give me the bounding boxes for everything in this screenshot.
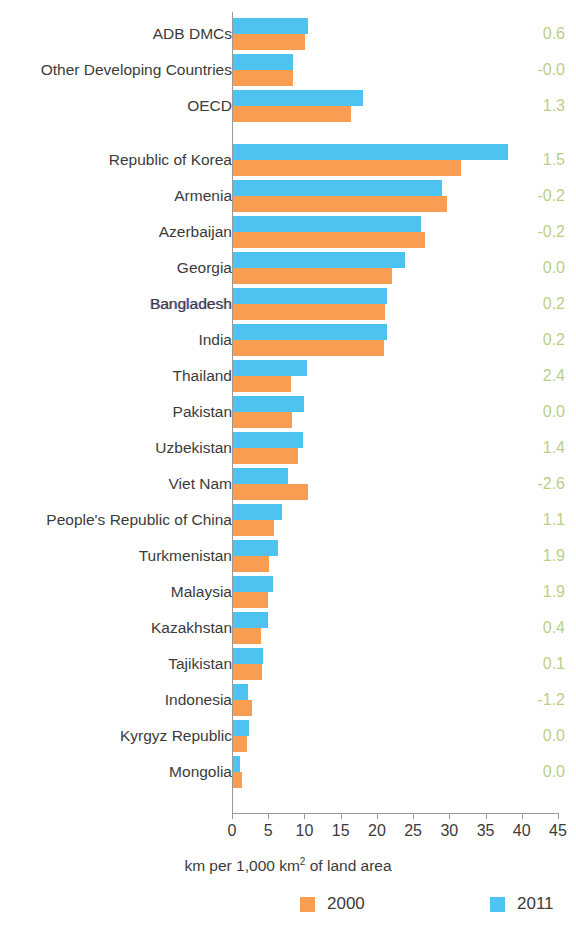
bar-row: Other Developing Countries-0.0 [0, 52, 576, 88]
growth-rate-value: 1.9 [505, 574, 565, 610]
x-tick-label: 0 [228, 822, 237, 840]
bar-row: Republic of Korea1.5 [0, 142, 576, 178]
category-label: Indonesia [2, 682, 232, 718]
bar-2011[interactable] [233, 144, 508, 160]
bar-2000[interactable] [233, 106, 351, 122]
bar-2000[interactable] [233, 556, 269, 572]
bar-2000[interactable] [233, 34, 305, 50]
growth-rate-value: 0.6 [505, 16, 565, 52]
category-label: Kazakhstan [2, 610, 232, 646]
x-tick-label: 40 [513, 822, 531, 840]
growth-rate-value: 2.4 [505, 358, 565, 394]
category-label: Bangladesh [2, 286, 232, 322]
bar-2000[interactable] [233, 412, 292, 428]
bar-2011[interactable] [233, 468, 288, 484]
bar-row: People's Republic of China1.1 [0, 502, 576, 538]
growth-rate-value: 0.2 [505, 322, 565, 358]
bar-2011[interactable] [233, 324, 387, 340]
bar-2011[interactable] [233, 180, 442, 196]
growth-rate-value: -0.2 [505, 178, 565, 214]
category-label: Thailand [2, 358, 232, 394]
bar-2000[interactable] [233, 196, 447, 212]
legend-swatch-2000-icon [300, 897, 315, 912]
bar-2011[interactable] [233, 756, 240, 772]
x-axis-title-main: km per 1,000 km [184, 857, 299, 874]
bar-row: Kyrgyz Republic0.0 [0, 718, 576, 754]
x-axis-line [232, 813, 558, 814]
bar-row: Kazakhstan0.4 [0, 610, 576, 646]
growth-rate-value: -2.6 [505, 466, 565, 502]
bar-2011[interactable] [233, 504, 282, 520]
growth-rate-value: -1.2 [505, 682, 565, 718]
bar-2011[interactable] [233, 54, 293, 70]
legend: 2000 2011 [0, 894, 576, 920]
bar-row: Thailand2.4 [0, 358, 576, 394]
bar-2011[interactable] [233, 360, 307, 376]
x-tick [522, 813, 523, 819]
growth-rate-value: 0.1 [505, 646, 565, 682]
bar-2011[interactable] [233, 612, 268, 628]
bar-2011[interactable] [233, 648, 263, 664]
legend-item-2000[interactable]: 2000 [300, 894, 365, 914]
bar-2011[interactable] [233, 684, 248, 700]
bar-row: India0.2 [0, 322, 576, 358]
bar-2011[interactable] [233, 18, 308, 34]
category-label: Tajikistan [2, 646, 232, 682]
bar-2000[interactable] [233, 592, 268, 608]
bar-row: ADB DMCs0.6 [0, 16, 576, 52]
growth-rate-value: -0.2 [505, 214, 565, 250]
bar-2000[interactable] [233, 160, 461, 176]
bar-2000[interactable] [233, 700, 252, 716]
bar-2011[interactable] [233, 252, 405, 268]
bar-2000[interactable] [233, 232, 425, 248]
bar-2011[interactable] [233, 576, 273, 592]
growth-rate-value: 1.9 [505, 538, 565, 574]
legend-item-2011[interactable]: 2011 [490, 894, 554, 914]
growth-rate-value: 1.3 [505, 88, 565, 124]
bar-2011[interactable] [233, 720, 249, 736]
bar-2011[interactable] [233, 216, 421, 232]
growth-rate-value: 0.0 [505, 250, 565, 286]
bar-2011[interactable] [233, 432, 303, 448]
x-tick-label: 45 [549, 822, 567, 840]
bar-2000[interactable] [233, 736, 247, 752]
x-tick [558, 813, 559, 819]
bar-2000[interactable] [233, 376, 291, 392]
bar-2000[interactable] [233, 268, 392, 284]
bar-2000[interactable] [233, 70, 293, 86]
category-label: Viet Nam [2, 466, 232, 502]
growth-rate-value: 1.4 [505, 430, 565, 466]
x-tick [377, 813, 378, 819]
x-tick [486, 813, 487, 819]
bar-2000[interactable] [233, 304, 385, 320]
bar-2000[interactable] [233, 664, 262, 680]
x-tick [341, 813, 342, 819]
growth-rate-value: 0.0 [505, 394, 565, 430]
bar-2000[interactable] [233, 628, 261, 644]
bar-2011[interactable] [233, 288, 387, 304]
growth-rate-value: 0.0 [505, 754, 565, 790]
bar-row: Uzbekistan1.4 [0, 430, 576, 466]
bar-2000[interactable] [233, 520, 274, 536]
legend-label-2011: 2011 [517, 894, 554, 914]
x-tick-label: 20 [368, 822, 386, 840]
x-tick-label: 30 [440, 822, 458, 840]
bar-2011[interactable] [233, 90, 363, 106]
bar-2000[interactable] [233, 772, 242, 788]
category-label: Kyrgyz Republic [2, 718, 232, 754]
bar-row: Bangladesh0.2 [0, 286, 576, 322]
bar-2000[interactable] [233, 448, 298, 464]
x-tick-label: 5 [264, 822, 273, 840]
category-label: Georgia [2, 250, 232, 286]
x-tick-label: 15 [332, 822, 350, 840]
x-tick [268, 813, 269, 819]
bar-2000[interactable] [233, 340, 384, 356]
bar-2011[interactable] [233, 540, 278, 556]
category-label: ADB DMCs [2, 16, 232, 52]
bar-2011[interactable] [233, 396, 304, 412]
category-label: India [2, 322, 232, 358]
bar-row: Indonesia-1.2 [0, 682, 576, 718]
bar-row: Turkmenistan1.9 [0, 538, 576, 574]
bar-row: Azerbaijan-0.2 [0, 214, 576, 250]
bar-2000[interactable] [233, 484, 308, 500]
